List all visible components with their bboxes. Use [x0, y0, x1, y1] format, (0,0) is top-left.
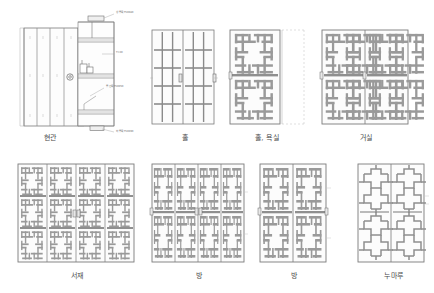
numaru-drawing [356, 162, 432, 266]
bang-2-drawing [258, 162, 354, 266]
figure-seojae: 서재 [16, 162, 138, 280]
caption-seojae: 서재 [16, 270, 138, 280]
annotation-board-thickness: T=30 [116, 51, 123, 54]
hyeongwan-drawing [18, 8, 146, 130]
hol-drawing [150, 28, 220, 128]
caption-geosil: 거실 [314, 132, 418, 142]
annotation-top-rail: 상 중 목 T50X80 [116, 10, 133, 14]
figure-numaru: 누마루 [356, 162, 432, 280]
caption-bang-2: 방 [234, 270, 354, 280]
figure-hol: 홀 [150, 28, 220, 144]
figure-hol-yoksil: 홀, 욕실 [228, 28, 306, 144]
figure-geosil: 거실 [320, 28, 412, 144]
hol-yoksil-drawing [228, 28, 306, 128]
figure-hyeongwan: 상 중 목 T50X80 T=30 중 간 목 T50X50 하 중 목 T50… [18, 8, 146, 144]
annotation-mid-rail: 중 간 목 T50X50 [106, 84, 123, 88]
geosil-drawing [320, 28, 412, 128]
bang-1-drawing [150, 162, 248, 266]
caption-numaru: 누마루 [346, 270, 434, 280]
caption-hol: 홀 [142, 132, 228, 142]
caption-hyeongwan: 현관 [0, 132, 100, 142]
seojae-drawing [16, 162, 138, 266]
figure-bang-1: 방 [150, 162, 248, 280]
caption-hol-yoksil: 홀, 욕실 [222, 132, 312, 142]
annotation-bottom-rail: 하 중 목 T50X90 [116, 129, 133, 133]
drawing-sheet: 상 중 목 T50X80 T=30 중 간 목 T50X50 하 중 목 T50… [0, 0, 434, 293]
figure-bang-2: 방 [258, 162, 354, 280]
